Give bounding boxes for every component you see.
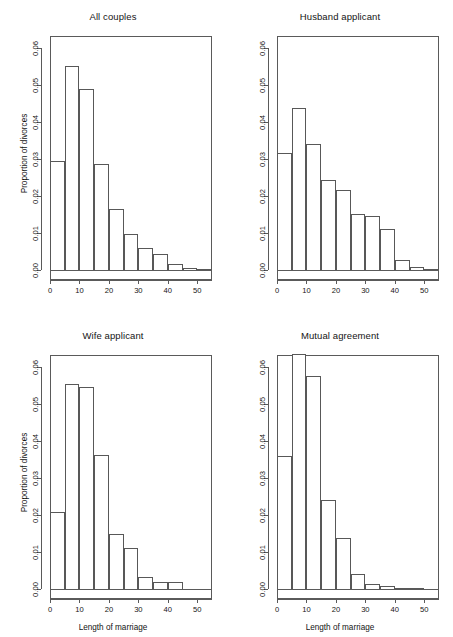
histogram-bar	[292, 354, 307, 589]
panel-title: Mutual agreement	[227, 330, 453, 341]
x-axis-tick	[365, 599, 366, 603]
bar-baseline	[50, 589, 212, 590]
y-axis-tick-label: 0.04	[257, 109, 268, 135]
y-axis-tick-label: 0.06	[30, 35, 41, 61]
panel-title: Husband applicant	[227, 11, 453, 22]
x-axis-tick-label: 0	[35, 605, 65, 614]
x-axis-tick-label: 10	[291, 286, 321, 295]
panel-mutual-agreement: Mutual agreement0.000.010.020.030.040.05…	[227, 319, 453, 637]
histogram-bar	[124, 548, 139, 589]
figure-canvas: All couples0.000.010.020.030.040.050.060…	[0, 0, 453, 637]
x-axis-line	[50, 279, 212, 280]
x-axis-tick-label: 40	[153, 605, 183, 614]
bar-baseline	[277, 589, 439, 590]
histogram-bar	[277, 153, 292, 270]
y-axis-tick-label: 0.04	[257, 428, 268, 454]
y-axis-tick-label: 0.05	[257, 391, 268, 417]
x-axis-tick-label: 0	[35, 286, 65, 295]
y-axis-tick-label: 0.03	[30, 146, 41, 172]
x-axis-tick-label: 30	[123, 286, 153, 295]
x-axis-tick	[168, 599, 169, 603]
histogram-bar	[138, 577, 153, 589]
x-axis-tick	[277, 280, 278, 284]
panel-title: All couples	[0, 11, 226, 22]
x-axis-tick	[395, 599, 396, 603]
y-axis-tick-label: 0.01	[30, 539, 41, 565]
histogram-bar	[321, 180, 336, 270]
y-axis-tick-label: 0.01	[30, 220, 41, 246]
x-axis-tick	[424, 599, 425, 603]
y-axis-tick-label: 0.04	[30, 428, 41, 454]
x-axis-tick-label: 50	[182, 286, 212, 295]
bar-baseline	[50, 270, 212, 271]
x-axis-tick-label: 40	[153, 286, 183, 295]
y-axis-tick-label: 0.00	[30, 577, 41, 603]
x-axis-line	[277, 598, 439, 599]
histogram-bar	[306, 144, 321, 270]
histogram-bar	[380, 229, 395, 270]
x-axis-tick-label: 40	[380, 605, 410, 614]
y-axis-tick-label: 0.00	[257, 258, 268, 284]
histogram-bar	[306, 376, 321, 589]
histogram-bar	[109, 209, 124, 270]
y-axis-tick-label: 0.03	[30, 465, 41, 491]
x-axis-tick-label: 20	[94, 286, 124, 295]
x-axis-tick-label: 20	[94, 605, 124, 614]
panel-husband-applicant: Husband applicant0.000.010.020.030.040.0…	[227, 0, 453, 318]
histogram-bar	[321, 500, 336, 589]
x-axis-tick	[306, 599, 307, 603]
histogram-bar	[292, 108, 307, 270]
y-axis-tick-label: 0.02	[30, 502, 41, 528]
y-axis-tick-label: 0.02	[30, 183, 41, 209]
histogram-bar	[124, 234, 139, 270]
x-axis-tick	[306, 280, 307, 284]
y-axis-tick-label: 0.02	[257, 183, 268, 209]
histogram-bar	[351, 214, 366, 270]
x-axis-tick	[365, 280, 366, 284]
x-axis-tick-label: 50	[182, 605, 212, 614]
y-axis-tick-label: 0.05	[30, 391, 41, 417]
histogram-bar	[395, 260, 410, 270]
histogram-bar	[50, 161, 65, 270]
y-axis-tick-label: 0.05	[257, 72, 268, 98]
histogram-bar	[109, 534, 124, 589]
bar-baseline	[277, 270, 439, 271]
y-axis-tick-label: 0.06	[30, 354, 41, 380]
x-axis-tick	[424, 280, 425, 284]
x-axis-tick	[168, 280, 169, 284]
histogram-bar	[94, 455, 109, 589]
histogram-bar	[50, 512, 65, 589]
y-axis-title: Proportion of divorces	[19, 356, 30, 590]
y-axis-tick-label: 0.05	[30, 72, 41, 98]
x-axis-tick-label: 30	[123, 605, 153, 614]
x-axis-tick	[395, 280, 396, 284]
y-axis-tick-label: 0.01	[257, 220, 268, 246]
y-axis-tick-label: 0.04	[30, 109, 41, 135]
x-axis-title: Length of marriage	[227, 623, 453, 632]
x-axis-tick	[79, 599, 80, 603]
x-axis-tick	[109, 599, 110, 603]
x-axis-line	[50, 598, 212, 599]
x-axis-tick	[336, 280, 337, 284]
histogram-bar	[94, 164, 109, 270]
histogram-bar	[336, 538, 351, 589]
histogram-bar	[138, 248, 153, 270]
x-axis-tick-label: 10	[64, 605, 94, 614]
x-axis-tick-label: 0	[262, 605, 292, 614]
x-axis-tick	[50, 280, 51, 284]
histogram-bar	[351, 574, 366, 589]
x-axis-tick	[197, 599, 198, 603]
y-axis-line	[41, 48, 42, 270]
x-axis-tick	[50, 599, 51, 603]
x-axis-line	[277, 279, 439, 280]
x-axis-tick-label: 30	[350, 286, 380, 295]
y-axis-tick-label: 0.01	[257, 539, 268, 565]
panel-wife-applicant: Wife applicant0.000.010.020.030.040.050.…	[0, 319, 226, 637]
histogram-bar	[365, 216, 380, 270]
y-axis-line	[41, 367, 42, 589]
x-axis-tick	[138, 280, 139, 284]
histogram-bar	[65, 66, 80, 270]
histogram-bar	[65, 384, 80, 589]
x-axis-tick	[336, 599, 337, 603]
panel-all-couples: All couples0.000.010.020.030.040.050.060…	[0, 0, 226, 318]
